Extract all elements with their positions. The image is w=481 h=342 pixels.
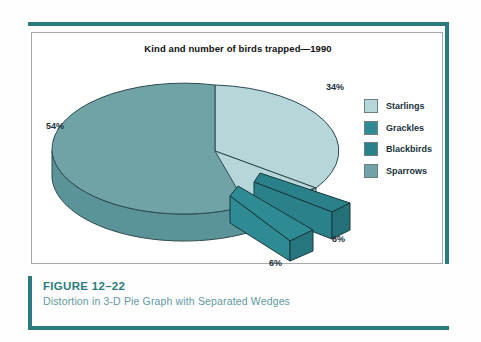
- figure-rule-right: [445, 22, 449, 264]
- legend-swatch-blackbirds: [364, 142, 378, 156]
- value-label-sparrows: 54%: [46, 121, 64, 131]
- figure-number: FIGURE 12–22: [43, 280, 423, 292]
- figure-rule-bottom: [28, 326, 449, 330]
- chart-title: Kind and number of birds trapped—1990: [32, 43, 444, 54]
- legend-label-grackles: Grackles: [386, 123, 424, 133]
- legend-label-sparrows: Sparrows: [386, 166, 427, 176]
- legend-swatch-starlings: [364, 99, 378, 113]
- value-label-grackles: 6%: [269, 258, 282, 268]
- figure-page: Kind and number of birds trapped—1990: [0, 0, 481, 342]
- legend-label-starlings: Starlings: [386, 101, 425, 111]
- chart-legend: Starlings Grackles Blackbirds Sparrows: [364, 99, 432, 178]
- legend-item-grackles: Grackles: [364, 121, 432, 135]
- legend-swatch-grackles: [364, 121, 378, 135]
- figure-description: Distortion in 3-D Pie Graph with Separat…: [43, 295, 423, 307]
- legend-swatch-sparrows: [364, 164, 378, 178]
- value-label-blackbirds: 6%: [332, 234, 345, 244]
- value-label-starlings: 34%: [326, 82, 344, 92]
- caption-accent-bar: [28, 276, 32, 330]
- legend-item-starlings: Starlings: [364, 99, 432, 113]
- figure-caption: FIGURE 12–22 Distortion in 3-D Pie Graph…: [43, 280, 423, 307]
- legend-item-blackbirds: Blackbirds: [364, 142, 432, 156]
- legend-item-sparrows: Sparrows: [364, 164, 432, 178]
- legend-label-blackbirds: Blackbirds: [386, 144, 432, 154]
- chart-panel: Kind and number of birds trapped—1990: [31, 32, 443, 264]
- figure-rule-top: [28, 22, 449, 26]
